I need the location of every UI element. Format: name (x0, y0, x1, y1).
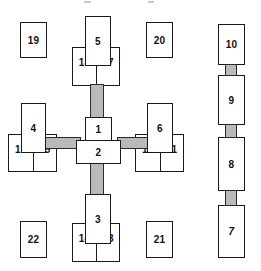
node-5: 5 (85, 16, 111, 66)
scan-artifact (84, 1, 91, 3)
node-9: 9 (218, 75, 245, 125)
node-8: 8 (218, 137, 245, 191)
connector-south (90, 161, 104, 197)
node-6: 6 (147, 103, 173, 153)
node-10: 10 (218, 24, 245, 65)
connector-chain-10-9 (225, 64, 237, 76)
connector-chain-8-7 (225, 190, 237, 206)
node-2: 2 (76, 140, 121, 164)
block-diagram: 18 17 5 16 15 4 12 11 6 14 13 3 1 2 19 2… (0, 0, 261, 271)
scan-artifact (148, 1, 154, 3)
node-21: 21 (146, 221, 173, 258)
connector-chain-9-8 (225, 124, 237, 138)
node-4: 4 (21, 103, 46, 153)
node-3: 3 (85, 194, 111, 244)
node-22: 22 (20, 221, 47, 258)
node-7: 7 (218, 205, 245, 258)
node-20: 20 (146, 22, 173, 58)
connector-north (90, 84, 104, 120)
node-19: 19 (20, 22, 47, 58)
node-1: 1 (85, 117, 112, 142)
